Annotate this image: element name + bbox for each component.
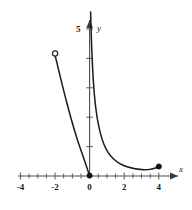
- y-axis-group: 5 y: [76, 20, 101, 178]
- x-tick-label-4: 4: [157, 182, 162, 192]
- y-tick-label-5: 5: [76, 24, 81, 34]
- x-axis-arrowhead: [170, 173, 178, 180]
- y-axis-arrowhead: [86, 20, 93, 28]
- y-axis-label: y: [96, 23, 101, 33]
- x-axis-label: x: [178, 164, 183, 174]
- x-tick-label-neg2: -2: [51, 182, 59, 192]
- plot-points: [53, 51, 162, 178]
- x-tick-label-2: 2: [122, 182, 127, 192]
- graph-canvas: -4 -2 0 2 4 x 5 y: [0, 0, 192, 210]
- x-tick-label-neg4: -4: [17, 182, 25, 192]
- function-graph-figure: -4 -2 0 2 4 x 5 y: [0, 0, 192, 210]
- left-open-endpoint-marker: [53, 51, 58, 56]
- x-tick-label-zero: 0: [87, 182, 92, 192]
- right-branch-curve: [91, 12, 159, 170]
- right-closed-endpoint-marker: [156, 164, 161, 169]
- origin-closed-point-marker: [87, 173, 92, 178]
- plot-curves: [55, 12, 159, 176]
- left-branch-curve: [55, 55, 90, 176]
